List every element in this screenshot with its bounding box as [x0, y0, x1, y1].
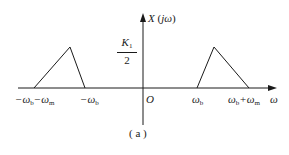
y-axis-label-paren-close: )	[172, 12, 176, 24]
right-spectrum-triangle	[197, 47, 249, 88]
tick-neg-outer-b: −ω	[34, 93, 49, 105]
omega-axis-arrow-icon	[268, 85, 277, 91]
tick-pos-outer-a: ω	[228, 93, 236, 105]
tick-pos-outer-b-sub: m	[254, 99, 259, 107]
tick-neg-outer: −ωb−ωm	[15, 94, 54, 107]
tick-pos-inner-a-sub: b	[200, 99, 204, 107]
tick-neg-outer-b-sub: m	[49, 99, 54, 107]
tick-neg-inner-a: −ω	[80, 93, 95, 105]
tick-neg-inner-a-sub: b	[95, 99, 99, 107]
figure-caption: ( a )	[129, 127, 147, 139]
x-axis-label: ω	[270, 94, 278, 105]
left-spectrum-triangle	[34, 47, 85, 88]
tick-neg-inner: −ωb	[80, 94, 99, 107]
tick-pos-outer-plus: +ω	[239, 93, 254, 105]
y-axis-label-arg: jω	[161, 12, 172, 24]
tick-pos-inner: ωb	[192, 94, 203, 107]
tick-pos-inner-a: ω	[192, 93, 200, 105]
magnitude-axis-arrow-icon	[140, 13, 146, 22]
amplitude-denominator: 2	[117, 53, 137, 66]
y-axis-label-main: X	[148, 12, 155, 24]
origin-label: O	[146, 94, 154, 105]
amplitude-numerator: K1	[117, 37, 137, 53]
y-axis-label: X (jω)	[148, 12, 176, 24]
amplitude-label: K1 2	[117, 37, 137, 66]
tick-neg-outer-a: −ω	[15, 93, 30, 105]
amplitude-numerator-sub: 1	[129, 42, 133, 50]
amplitude-numerator-main: K	[122, 36, 129, 48]
tick-pos-outer: ωb+ωm	[228, 94, 260, 107]
